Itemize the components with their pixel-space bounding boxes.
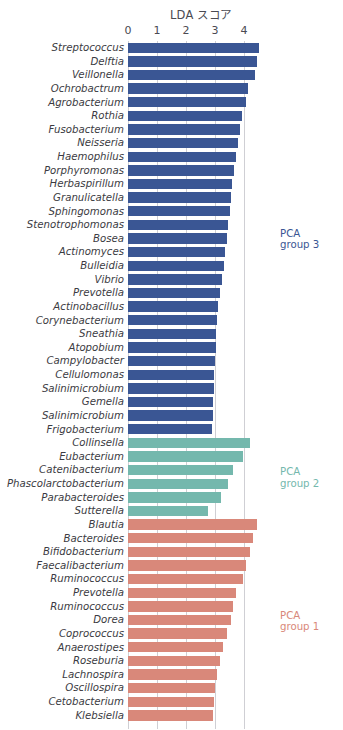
bar-row: Atopobium (0, 341, 343, 355)
taxon-label-text: Agrobacterium (48, 96, 124, 110)
bar-row: Campylobacter (0, 354, 343, 368)
bar-row: Lachnospira (0, 668, 343, 682)
taxon-label-text: Stenotrophomonas (27, 218, 124, 232)
bar (128, 574, 243, 584)
bar-row: Actinobacillus (0, 300, 343, 314)
bar (128, 342, 216, 352)
taxon-label-text: Klebsiella (75, 709, 124, 723)
bar-row: Parabacteroides (0, 491, 343, 505)
bar (128, 615, 231, 625)
taxon-label-text: Eubacterium (59, 450, 124, 464)
taxon-label-text: Prevotella (73, 586, 124, 600)
bar-row: Faecalibacterium (0, 559, 343, 573)
bar-row: Veillonella (0, 68, 343, 82)
taxon-label-text: Bulleidia (80, 259, 124, 273)
taxon-label-text: Sphingomonas (48, 205, 124, 219)
bar (128, 43, 259, 53)
x-tick-label-3: 3 (212, 24, 219, 37)
bar-row: Sneathia (0, 327, 343, 341)
bar-row: Gemella (0, 395, 343, 409)
taxon-label-text: Cellulomonas (55, 368, 124, 382)
taxon-label-text: Catenibacterium (39, 463, 124, 477)
bar-row: Bacteroides (0, 532, 343, 546)
taxon-label-text: Ochrobactrum (51, 82, 124, 96)
taxon-label-text: Blautia (88, 518, 124, 532)
bar (128, 451, 243, 461)
x-tick-label-1: 1 (154, 24, 161, 37)
taxon-label-text: Streptococcus (52, 41, 124, 55)
bar-row: Fusobacterium (0, 123, 343, 137)
bar (128, 274, 222, 284)
bar (128, 97, 246, 107)
taxon-label-text: Bacteroides (64, 532, 124, 546)
taxon-label-text: Corynebacterium (36, 314, 124, 328)
bar-row: Streptococcus (0, 41, 343, 55)
bar-row: Klebsiella (0, 709, 343, 723)
bar-row: Eubacterium (0, 450, 343, 464)
taxon-label-text: Roseburia (73, 654, 124, 668)
bar-row: Blautia (0, 518, 343, 532)
bar-row: Roseburia (0, 654, 343, 668)
bar-row: Sutterella (0, 504, 343, 518)
bar (128, 165, 234, 175)
bar (128, 642, 223, 652)
taxon-label-text: Frigobacterium (46, 423, 124, 437)
x-axis-tick-labels: 01234 (128, 24, 273, 39)
bar-row: Ochrobactrum (0, 82, 343, 96)
bar (128, 288, 220, 298)
bar (128, 410, 213, 420)
legend-label-group1: PCA group 1 (280, 610, 319, 633)
bar (128, 124, 240, 134)
bar (128, 383, 214, 393)
bar-row: Rothia (0, 109, 343, 123)
x-tick-label-0: 0 (125, 24, 132, 37)
bar (128, 138, 238, 148)
bar-row: Ruminococcus (0, 572, 343, 586)
taxon-label-text: Sutterella (74, 504, 124, 518)
taxon-label-text: Veillonella (72, 68, 124, 82)
bar (128, 83, 248, 93)
bar (128, 356, 215, 366)
bar (128, 261, 224, 271)
taxon-label-text: Actinomyces (59, 245, 124, 259)
bar (128, 424, 212, 434)
bar (128, 247, 225, 257)
legend-label-group2: PCA group 2 (280, 466, 319, 489)
bar-row: Cellulomonas (0, 368, 343, 382)
bar (128, 560, 246, 570)
bar-row: Agrobacterium (0, 96, 343, 110)
bar (128, 220, 228, 230)
bar (128, 70, 255, 80)
bar (128, 519, 257, 529)
taxon-label-text: Ruminococcus (50, 600, 124, 614)
taxon-label-text: Coprococcus (59, 627, 124, 641)
bar (128, 233, 227, 243)
bar (128, 192, 231, 202)
bar (128, 465, 233, 475)
taxon-label-text: Actinobacillus (53, 300, 124, 314)
legend-label-group3: PCA group 3 (280, 228, 319, 251)
taxon-label-text: Phascolarctobacterium (7, 477, 124, 491)
bar-row: Sphingomonas (0, 205, 343, 219)
bar (128, 601, 233, 611)
bar (128, 669, 217, 679)
bar-row: Prevotella (0, 586, 343, 600)
bar-row: Delftia (0, 55, 343, 69)
bar (128, 506, 208, 516)
bar (128, 56, 257, 66)
bar-row: Haemophilus (0, 150, 343, 164)
taxon-label-text: Delftia (90, 55, 124, 69)
bar (128, 315, 217, 325)
taxon-label-text: Prevotella (73, 286, 124, 300)
bar (128, 710, 213, 720)
bar (128, 628, 227, 638)
bar-row: Cetobacterium (0, 695, 343, 709)
bar (128, 111, 242, 121)
bar-row: Granulicatella (0, 191, 343, 205)
bar-row: Herbaspirillum (0, 177, 343, 191)
taxon-label-text: Anaerostipes (57, 641, 124, 655)
taxon-label-text: Collinsella (72, 436, 124, 450)
bar-row: Frigobacterium (0, 423, 343, 437)
bar-row: Neisseria (0, 136, 343, 150)
taxon-label-text: Bosea (93, 232, 124, 246)
